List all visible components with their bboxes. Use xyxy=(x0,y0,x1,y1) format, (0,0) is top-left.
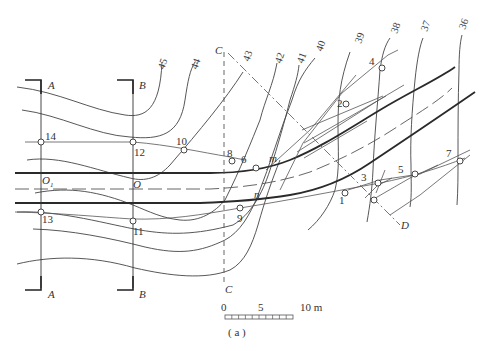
svg-text:B: B xyxy=(139,79,146,91)
svg-text:5: 5 xyxy=(398,163,404,175)
point-d-intersect xyxy=(371,197,377,203)
svg-text:1: 1 xyxy=(50,181,54,189)
svg-text:38: 38 xyxy=(389,21,403,35)
svg-text:B: B xyxy=(139,288,146,300)
point-12 xyxy=(130,139,136,145)
svg-text:C: C xyxy=(215,44,223,56)
svg-text:O: O xyxy=(42,174,50,186)
svg-text:44: 44 xyxy=(189,56,203,70)
svg-text:37: 37 xyxy=(419,19,433,33)
svg-text:2: 2 xyxy=(337,97,343,109)
figure-caption: ( a ) xyxy=(228,326,246,339)
svg-text:10 m: 10 m xyxy=(300,301,323,313)
road-contour-diagram: 1 2 3 4 5 6 7 8 9 10 11 12 13 14 45 44 4… xyxy=(0,0,493,351)
svg-text:4: 4 xyxy=(369,55,375,67)
point-11 xyxy=(130,218,136,224)
section-lines xyxy=(25,52,400,290)
road-edges xyxy=(15,67,475,203)
scale-bar: 0 5 10 m xyxy=(221,301,323,319)
svg-text:41: 41 xyxy=(295,51,309,65)
svg-text:7: 7 xyxy=(446,147,452,159)
svg-text:13: 13 xyxy=(42,213,54,225)
svg-text:8: 8 xyxy=(227,147,233,159)
svg-text:A: A xyxy=(47,79,55,91)
point-m xyxy=(253,165,259,171)
point-2 xyxy=(343,101,349,107)
point-14 xyxy=(38,139,44,145)
svg-text:43: 43 xyxy=(241,49,255,63)
svg-text:10: 10 xyxy=(176,135,188,147)
svg-text:42: 42 xyxy=(273,51,287,65)
svg-text:12: 12 xyxy=(134,146,145,158)
svg-text:D: D xyxy=(400,219,409,231)
point-3 xyxy=(375,180,381,186)
svg-text:36: 36 xyxy=(457,17,471,31)
svg-text:O: O xyxy=(133,178,141,190)
slope-construction-lines xyxy=(15,50,470,219)
point-7 xyxy=(457,158,463,164)
svg-text:40: 40 xyxy=(314,39,328,53)
svg-text:14: 14 xyxy=(45,130,57,142)
contour-lines xyxy=(17,35,462,276)
svg-text:11: 11 xyxy=(133,225,144,237)
point-labels: 1 2 3 4 5 6 7 8 9 10 11 12 13 14 xyxy=(42,55,452,237)
svg-text:C: C xyxy=(225,283,233,295)
svg-text:6: 6 xyxy=(241,153,247,165)
svg-text:9: 9 xyxy=(237,212,243,224)
point-4 xyxy=(379,65,385,71)
svg-text:45: 45 xyxy=(156,57,170,71)
svg-text:0: 0 xyxy=(221,301,227,313)
svg-text:1: 1 xyxy=(339,194,345,206)
svg-text:3: 3 xyxy=(361,171,367,183)
svg-text:n: n xyxy=(254,188,260,200)
svg-text:39: 39 xyxy=(353,31,367,45)
svg-text:5: 5 xyxy=(258,301,264,313)
point-5 xyxy=(412,171,418,177)
svg-text:m: m xyxy=(269,152,277,164)
svg-text:A: A xyxy=(47,288,55,300)
contour-labels: 45 44 43 42 41 40 39 38 37 36 xyxy=(156,17,471,71)
point-9 xyxy=(237,205,243,211)
point-10 xyxy=(181,147,187,153)
